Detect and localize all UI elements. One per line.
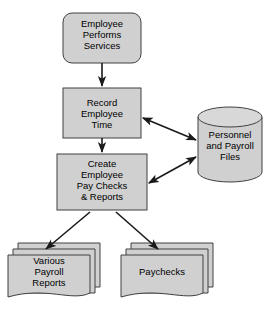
flowchart-canvas xyxy=(0,0,275,316)
node-paychecks xyxy=(121,243,213,297)
connector-create-to-files xyxy=(149,157,196,183)
node-employee-performs-services xyxy=(63,13,141,63)
connector-record-to-files xyxy=(143,118,196,140)
node-create-employee-pay-checks xyxy=(57,154,147,210)
flowchart-diagram: Employee Performs Services Record Employ… xyxy=(0,0,275,316)
node-various-payroll-reports xyxy=(8,243,100,297)
node-record-employee-time xyxy=(63,88,141,138)
node-personnel-and-payroll-files xyxy=(198,107,262,182)
